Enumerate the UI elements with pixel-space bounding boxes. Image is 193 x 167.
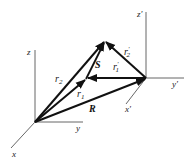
label-R: R (88, 103, 96, 114)
label-y-prime: y′ (171, 79, 179, 89)
label-S: S (95, 59, 101, 70)
label-r2-prime: r′2 (124, 45, 130, 59)
label-r1-prime: r′1 (113, 60, 119, 74)
x-axis (11, 122, 35, 148)
label-r1: r1 (77, 88, 84, 101)
label-x-prime: x′ (124, 104, 132, 114)
frame-primed (126, 12, 184, 104)
label-y: y (75, 123, 80, 133)
label-z: z (26, 47, 31, 57)
frame-unprimed (11, 50, 83, 148)
label-z-prime: z′ (136, 9, 144, 19)
vector-r1 (35, 80, 85, 122)
vector-diagram: z y x z′ y′ x′ r2 r1 R S r′1 r′2 (0, 0, 193, 167)
label-x: x (11, 149, 16, 159)
label-r2: r2 (55, 73, 63, 86)
